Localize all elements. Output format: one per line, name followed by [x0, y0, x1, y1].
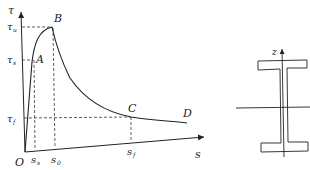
stress-slip-curve	[25, 27, 187, 152]
horizontal-axis	[236, 107, 310, 108]
i-beam-section: z	[236, 47, 310, 157]
point-C-label: C	[128, 102, 137, 115]
tau-axis	[21, 12, 25, 152]
svg-text:s: s	[127, 146, 132, 157]
tick-s-s: s s	[31, 154, 40, 166]
point-B-label: B	[53, 12, 62, 25]
point-A-label: A	[35, 53, 44, 66]
svg-text:f: f	[12, 118, 17, 126]
svg-text:s: s	[51, 154, 56, 165]
s-axis	[25, 137, 204, 152]
origin-label: O	[15, 156, 24, 169]
tick-tau-s: τ s	[7, 54, 16, 66]
svg-text:0: 0	[57, 159, 61, 166]
tick-s-0: s 0	[51, 154, 61, 166]
svg-text:f: f	[132, 151, 137, 159]
s-axis-label: s	[195, 148, 201, 161]
point-D-label: D	[182, 107, 192, 120]
tau-axis-label: τ	[8, 4, 15, 17]
guide-lines	[22, 27, 131, 150]
svg-text:s: s	[37, 159, 40, 166]
tau-f-guide	[24, 117, 131, 118]
tick-s-f: s f	[127, 146, 137, 159]
tick-tau-f: τ f	[7, 113, 17, 126]
svg-text:s: s	[13, 59, 16, 66]
diagram-canvas: B A C D τ s O τ u τ s τ f s s s 0 s f z	[0, 0, 310, 170]
svg-text:s: s	[31, 154, 36, 165]
s-0-guide	[53, 28, 55, 148]
z-axis-label: z	[271, 47, 277, 57]
s-s-guide	[34, 60, 35, 150]
z-axis	[282, 49, 284, 157]
svg-text:u: u	[13, 26, 17, 33]
tick-tau-u: τ u	[7, 21, 17, 33]
